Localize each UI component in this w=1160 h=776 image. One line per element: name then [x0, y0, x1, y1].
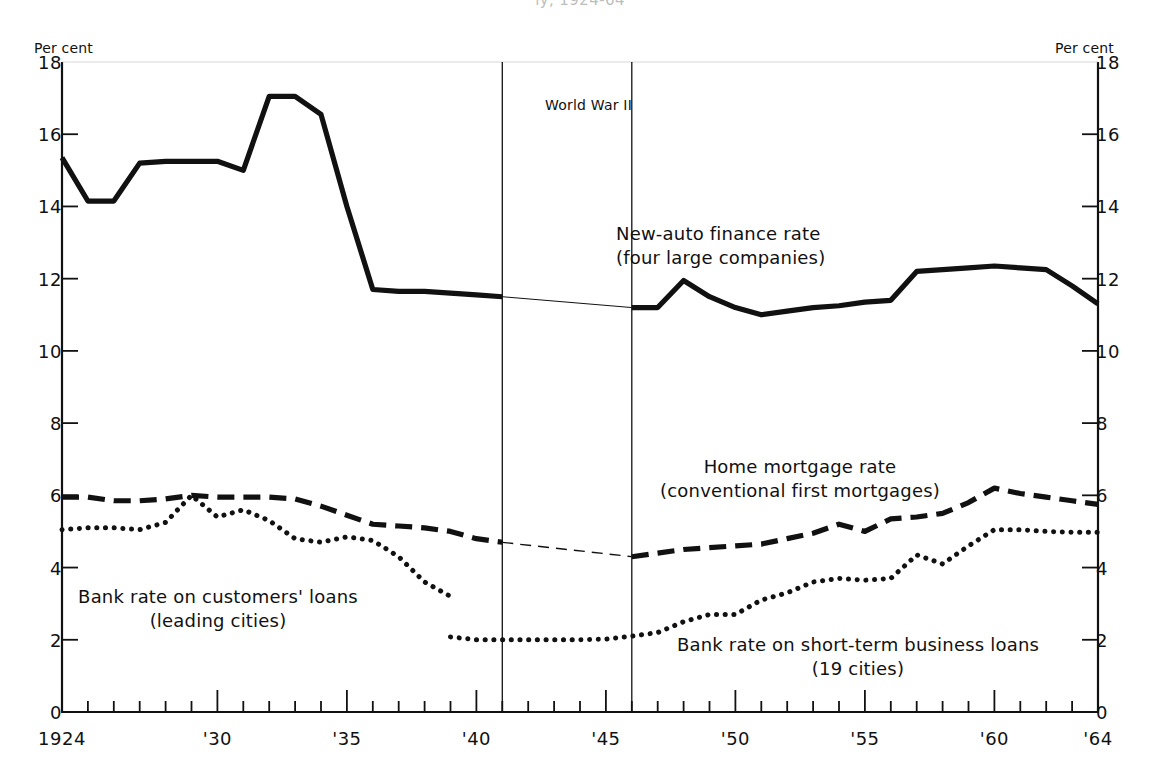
annotation-new-auto-line-2: (four large companies)	[616, 246, 825, 270]
annotation-home-mortgage-line-2: (conventional first mortgages)	[660, 479, 940, 503]
annotation-new-auto-finance-rate: New-auto finance rate (four large compan…	[616, 222, 825, 270]
annotation-customers-loans-line-2: (leading cities)	[78, 609, 358, 633]
series-line	[451, 530, 1099, 640]
annotation-new-auto-line-1: New-auto finance rate	[616, 222, 825, 246]
series-bridge-line	[502, 297, 632, 308]
annotation-home-mortgage-rate: Home mortgage rate (conventional first m…	[660, 455, 940, 503]
annotation-short-term-line-2: (19 cities)	[677, 657, 1039, 681]
annotation-customers-loans: Bank rate on customers' loans (leading c…	[78, 585, 358, 633]
annotation-short-term-business-loans: Bank rate on short-term business loans (…	[677, 633, 1039, 681]
series-line	[632, 266, 1098, 315]
annotation-short-term-line-1: Bank rate on short-term business loans	[677, 633, 1039, 657]
series-line	[62, 96, 502, 296]
annotation-home-mortgage-line-1: Home mortgage rate	[660, 455, 940, 479]
series-bridge-line	[502, 542, 632, 556]
interest-rate-chart-figure: ly, 1924-64 Per cent Per cent 0246810121…	[0, 0, 1160, 776]
annotation-customers-loans-line-1: Bank rate on customers' loans	[78, 585, 358, 609]
series-line	[62, 495, 451, 596]
annotation-world-war-2: World War II	[545, 96, 632, 114]
series-line	[62, 495, 502, 542]
